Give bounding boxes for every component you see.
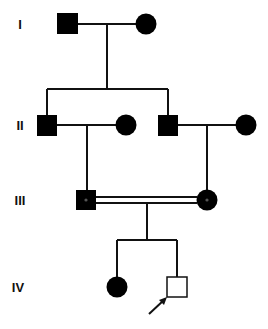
individual-II-1-affected-male (37, 115, 57, 136)
generation-label-II: II (16, 118, 23, 133)
individual-IV-2-proband-male (167, 277, 187, 297)
generation-label-I: I (18, 17, 22, 32)
individual-I-1-affected-male (57, 13, 78, 34)
individual-II-2-affected-female (116, 115, 137, 136)
individual-II-4-affected-female (236, 115, 257, 136)
generation-label-IV: IV (12, 280, 25, 295)
individual-IV-1-affected-female (107, 277, 128, 298)
center-dot-marker (84, 198, 87, 201)
individual-II-3-affected-male (158, 115, 178, 136)
pedigree-chart: I II III IV (0, 0, 268, 329)
generation-label-III: III (15, 193, 26, 208)
individual-I-2-affected-female (136, 14, 157, 35)
center-dot-marker (205, 198, 208, 201)
